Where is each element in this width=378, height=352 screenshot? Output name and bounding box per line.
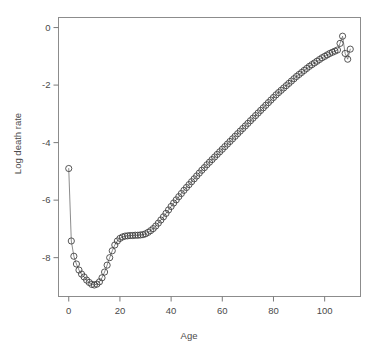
y-tick-label: 0: [25, 23, 51, 33]
y-tick-label: -8: [25, 253, 51, 263]
y-tick-label: -4: [25, 138, 51, 148]
x-axis-title: Age: [0, 330, 378, 341]
y-axis-title: Log death rate: [12, 89, 23, 199]
y-axis-ticks: [54, 28, 59, 258]
data-points: [66, 33, 354, 288]
plot-frame: [59, 18, 361, 297]
x-axis-ticks: [69, 297, 325, 302]
x-tick-label: 20: [100, 306, 140, 316]
y-tick-label: -2: [25, 80, 51, 90]
y-tick-label: -6: [25, 195, 51, 205]
x-tick-label: 100: [305, 306, 345, 316]
x-tick-label: 0: [49, 306, 89, 316]
x-tick-label: 60: [202, 306, 242, 316]
x-tick-label: 40: [151, 306, 191, 316]
x-tick-label: 80: [253, 306, 293, 316]
mortality-chart-figure: 0-2-4-6-8020406080100 Log death rate Age: [0, 0, 378, 352]
plot-canvas: [0, 0, 378, 352]
